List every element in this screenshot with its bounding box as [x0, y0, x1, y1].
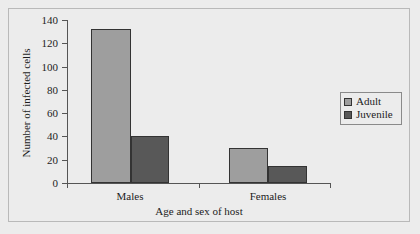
y-axis-title: Number of infected cells — [20, 33, 32, 173]
y-tick-140 — [62, 20, 67, 21]
legend: Adult Juvenile — [340, 92, 402, 125]
y-tick-label-120: 120 — [42, 38, 59, 49]
y-tick-label-60: 60 — [47, 108, 58, 119]
legend-item-adult[interactable]: Adult — [344, 95, 398, 108]
y-tick-20 — [62, 160, 67, 161]
legend-label-juvenile: Juvenile — [356, 109, 393, 120]
y-tick-120 — [62, 43, 67, 44]
y-tick-label-140: 140 — [42, 15, 59, 26]
x-tick-end — [330, 183, 331, 188]
x-tick-label-males: Males — [90, 190, 170, 202]
bar-males-juvenile — [131, 136, 169, 183]
y-tick-label-20: 20 — [47, 155, 58, 166]
x-tick-middle — [199, 183, 200, 188]
adult-swatch-icon — [344, 98, 352, 106]
x-tick-start — [67, 183, 68, 188]
y-tick-label-80: 80 — [47, 85, 58, 96]
plot-area: 0 20 40 60 80 100 120 140 Males Females … — [0, 0, 420, 234]
bar-females-adult — [229, 148, 268, 183]
x-tick-label-females: Females — [228, 190, 308, 202]
juvenile-swatch-icon — [344, 111, 352, 119]
figure: 0 20 40 60 80 100 120 140 Males Females … — [0, 0, 420, 234]
bar-females-juvenile — [268, 166, 307, 183]
y-tick-label-40: 40 — [47, 131, 58, 142]
y-tick-60 — [62, 113, 67, 114]
y-axis-line — [67, 20, 68, 184]
x-axis-title: Age and sex of host — [67, 205, 331, 217]
y-tick-label-0: 0 — [53, 178, 59, 189]
y-tick-100 — [62, 67, 67, 68]
legend-label-adult: Adult — [356, 96, 381, 107]
y-tick-80 — [62, 90, 67, 91]
y-tick-40 — [62, 136, 67, 137]
bar-males-adult — [91, 29, 131, 183]
legend-item-juvenile[interactable]: Juvenile — [344, 108, 398, 121]
y-tick-label-100: 100 — [42, 62, 59, 73]
